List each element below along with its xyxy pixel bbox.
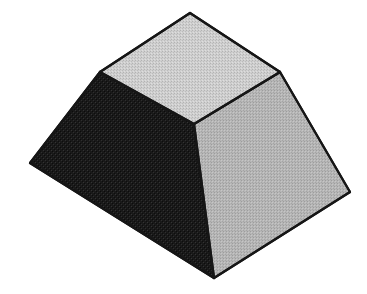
truncated-pyramid-illustration <box>0 0 367 294</box>
figure-canvas <box>0 0 367 294</box>
